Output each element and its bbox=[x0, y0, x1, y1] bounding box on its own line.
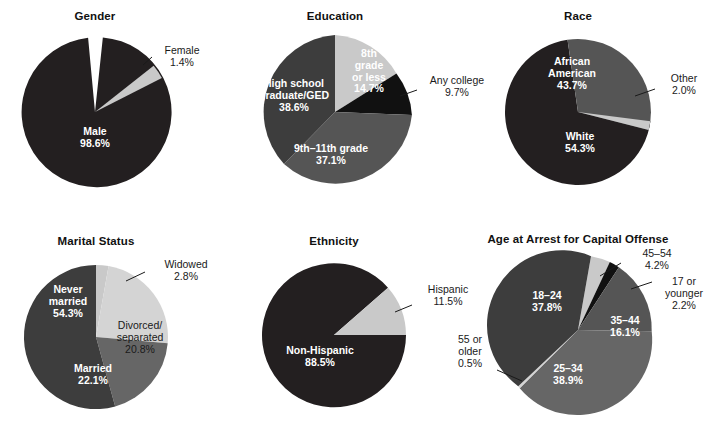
pie-label-45-54: 45–54 4.2% bbox=[642, 248, 671, 272]
pie-label-17-or-younger: 17 or younger 2.2% bbox=[665, 276, 703, 311]
pie-chart-figure: Gender Male 98.6% Female 1.4% Education bbox=[0, 0, 717, 435]
pie-label-25-34: 25–34 38.9% bbox=[553, 363, 583, 387]
pie-label-18-24: 18–24 37.8% bbox=[532, 290, 562, 314]
pie-label-55-or-older: 55 or older 0.5% bbox=[458, 334, 482, 369]
pie-svg-age-at-arrest bbox=[0, 0, 717, 435]
pie-label-35-44: 35–44 16.1% bbox=[610, 315, 640, 339]
